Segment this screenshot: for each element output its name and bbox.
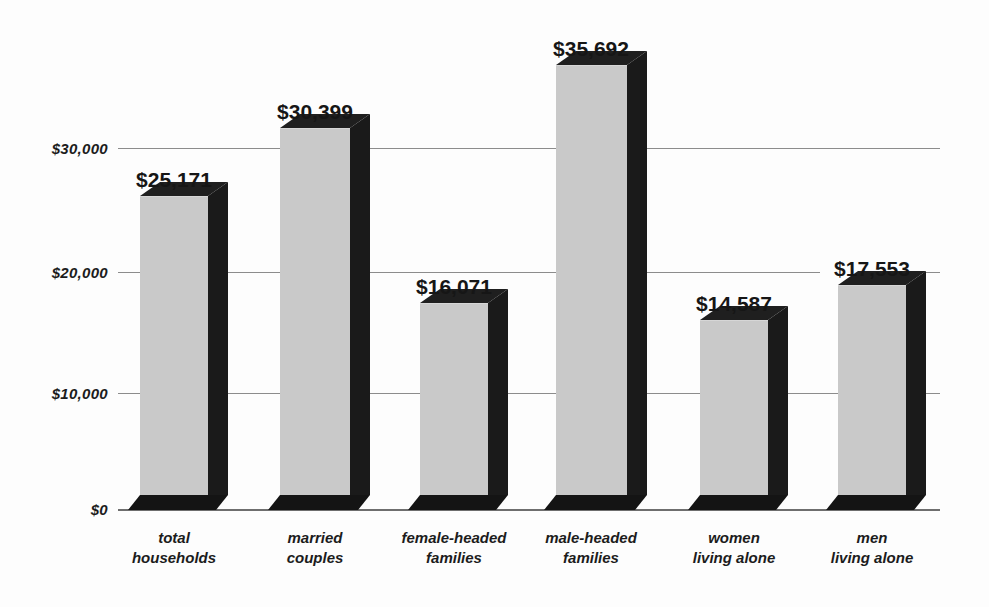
gridline-10000: [118, 393, 940, 394]
category-label-line: living alone: [802, 548, 942, 568]
category-label-line: living alone: [664, 548, 804, 568]
bar-bottom-face: [544, 495, 647, 510]
category-label-line: total: [104, 528, 244, 548]
bar-side-face: [906, 271, 926, 495]
bar-bottom-face: [826, 495, 926, 510]
bar-chart: $30,000 $20,000 $10,000 $0 $25,171 total…: [0, 0, 989, 607]
category-label-married-couples: married couples: [245, 528, 385, 568]
bar-bottom-face: [408, 495, 508, 510]
category-label-line: couples: [245, 548, 385, 568]
category-label-line: households: [104, 548, 244, 568]
bar-value-label: $16,071: [384, 275, 524, 299]
category-label-men-living-alone: men living alone: [802, 528, 942, 568]
category-label-line: male-headed: [521, 528, 661, 548]
ytick-label-10000: $10,000: [20, 385, 108, 402]
category-label-male-headed-families: male-headed families: [521, 528, 661, 568]
bar-front-face: [420, 303, 488, 496]
axis-baseline-zero: [118, 509, 940, 511]
category-label-line: men: [802, 528, 942, 548]
bar-front-face: [140, 196, 208, 496]
bar-bottom-face: [128, 495, 228, 510]
bar-side-face: [488, 289, 508, 495]
category-label-line: women: [664, 528, 804, 548]
bar-side-face: [208, 182, 228, 495]
category-label-line: female-headed: [384, 528, 524, 548]
bar-front-face: [280, 128, 350, 496]
bar-value-label: $30,399: [245, 100, 385, 124]
category-label-female-headed-families: female-headed families: [384, 528, 524, 568]
bar-value-label: $25,171: [104, 168, 244, 192]
category-label-line: married: [245, 528, 385, 548]
category-label-women-living-alone: women living alone: [664, 528, 804, 568]
ytick-label-0: $0: [20, 501, 108, 518]
ytick-label-20000: $20,000: [20, 264, 108, 281]
gridline-30000: [118, 148, 940, 149]
bar-bottom-face: [268, 495, 370, 510]
bar-front-face: [838, 285, 906, 496]
bar-side-face: [350, 114, 370, 495]
ytick-label-30000: $30,000: [20, 140, 108, 157]
bar-front-face: [556, 65, 627, 496]
bar-side-face: [627, 51, 647, 495]
category-label-line: families: [521, 548, 661, 568]
bar-bottom-face: [688, 495, 788, 510]
bar-side-face: [768, 306, 788, 495]
bar-value-label: $14,587: [664, 292, 804, 316]
bar-value-label: $17,553: [802, 257, 942, 281]
category-label-line: families: [384, 548, 524, 568]
category-label-total-households: total households: [104, 528, 244, 568]
bar-value-label: $35,692: [521, 37, 661, 61]
bar-front-face: [700, 320, 768, 496]
